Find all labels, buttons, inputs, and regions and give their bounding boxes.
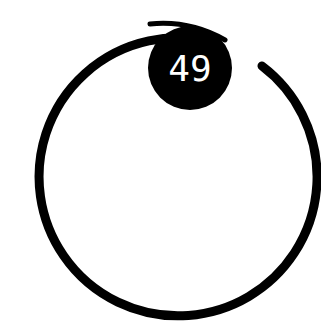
count-value: 49	[168, 48, 211, 89]
count-badge: 49	[148, 26, 232, 110]
